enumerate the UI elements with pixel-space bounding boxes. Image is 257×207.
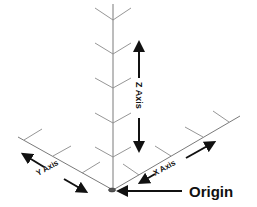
- origin-label: Origin: [189, 183, 233, 200]
- y-axis-ticks: [24, 129, 100, 173]
- x-axis-line: [113, 116, 240, 190]
- axes-diagram: Z Axis X Axis Y Axis Origin: [0, 0, 257, 207]
- y-axis-line: [18, 137, 113, 190]
- x-axis-label: X Axis: [152, 158, 178, 178]
- origin-marker: [109, 188, 116, 192]
- y-axis-label: Y Axis: [35, 158, 61, 178]
- x-axis-arrow: [143, 144, 211, 181]
- z-axis-label: Z Axis: [134, 82, 144, 109]
